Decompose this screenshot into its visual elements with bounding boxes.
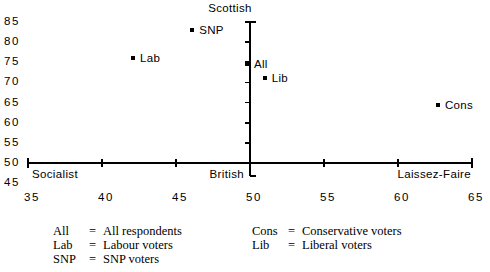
legend-item-row: All=All respondents: [53, 224, 182, 238]
scatter-chart: 858075706560555045 35404550556065 Scotti…: [0, 0, 490, 272]
y-axis-tick-label: 60: [4, 116, 20, 128]
legend-right-column: Cons=Conservative votersLib=Liberal vote…: [252, 224, 402, 252]
axis-anchor-label-british: British: [210, 168, 244, 180]
legend-item-equals: =: [288, 238, 302, 252]
x-axis-tick-label: 45: [172, 191, 188, 203]
data-point-label-lab: Lab: [140, 52, 160, 64]
legend-left-column: All=All respondentsLab=Labour votersSNP=…: [53, 224, 182, 266]
legend-item-row: Lab=Labour voters: [53, 238, 182, 252]
data-point-marker-snp: [190, 28, 194, 32]
legend-item-row: SNP=SNP voters: [53, 252, 182, 266]
legend-item-value: SNP voters: [103, 252, 159, 266]
legend-item-equals: =: [89, 224, 103, 238]
axis-anchor-label-laissez-faire: Laissez-Faire: [397, 168, 471, 180]
axis-anchor-label-socialist: Socialist: [32, 168, 78, 180]
legend-item-value: Conservative voters: [302, 224, 402, 238]
axis-anchor-label-scottish: Scottish: [208, 2, 252, 14]
legend-item-key: All: [53, 224, 89, 238]
legend-item-row: Lib=Liberal voters: [252, 238, 402, 252]
legend-item-value: All respondents: [103, 224, 182, 238]
y-axis-tick-label: 85: [4, 15, 20, 27]
y-axis-tick-label: 45: [4, 176, 20, 188]
legend-item-equals: =: [89, 252, 103, 266]
legend-item-key: SNP: [53, 252, 89, 266]
x-axis-tick-label: 40: [98, 191, 114, 203]
y-axis-tick-label: 50: [4, 156, 20, 168]
x-axis-tick-label: 65: [468, 191, 484, 203]
y-axis-tick-label: 80: [4, 35, 20, 47]
data-point-label-all: All: [254, 58, 268, 70]
legend-item-equals: =: [288, 224, 302, 238]
legend-item-key: Cons: [252, 224, 288, 238]
y-axis-tick-label: 75: [4, 55, 20, 67]
data-point-marker-cons: [436, 103, 440, 107]
legend-item-value: Labour voters: [103, 238, 173, 252]
legend-item-key: Lab: [53, 238, 89, 252]
data-point-marker-lab: [131, 56, 135, 60]
data-point-label-snp: SNP: [199, 24, 224, 36]
data-point-label-cons: Cons: [445, 99, 473, 111]
y-axis-tick-label: 65: [4, 96, 20, 108]
x-axis-tick-label: 35: [24, 191, 40, 203]
data-point-label-lib: Lib: [272, 72, 288, 84]
legend-item-value: Liberal voters: [302, 238, 372, 252]
x-axis-tick-label: 60: [394, 191, 410, 203]
x-axis-tick-label: 55: [320, 191, 336, 203]
legend-item-row: Cons=Conservative voters: [252, 224, 402, 238]
y-axis-tick-label: 70: [4, 75, 20, 87]
y-axis-tick-label: 55: [4, 136, 20, 148]
data-point-marker-lib: [263, 76, 267, 80]
x-axis-tick-label: 50: [246, 191, 262, 203]
legend-item-key: Lib: [252, 238, 288, 252]
data-point-marker-all: [245, 62, 249, 66]
legend-item-equals: =: [89, 238, 103, 252]
